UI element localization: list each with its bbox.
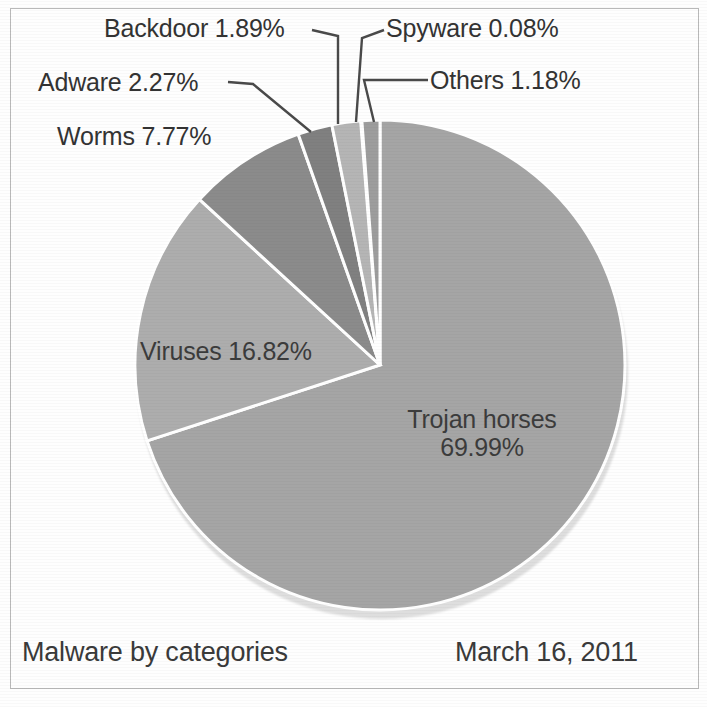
slice-label-trojan-percent: 69.99% bbox=[392, 433, 572, 461]
pie-chart bbox=[0, 0, 707, 707]
leader-line-backdoor bbox=[312, 30, 338, 124]
slice-label-spyware: Spyware 0.08% bbox=[386, 14, 559, 42]
chart-page: Backdoor 1.89% Spyware 0.08% Adware 2.27… bbox=[0, 0, 707, 707]
slice-label-backdoor: Backdoor 1.89% bbox=[104, 14, 285, 42]
chart-title: Malware by categories bbox=[22, 637, 288, 667]
leader-line-adware bbox=[228, 82, 311, 132]
slice-label-adware: Adware 2.27% bbox=[38, 68, 198, 96]
slice-label-worms: Worms 7.77% bbox=[57, 122, 211, 150]
slice-label-others: Others 1.18% bbox=[430, 66, 580, 94]
slice-label-trojan-horses: Trojan horses 69.99% bbox=[392, 405, 572, 461]
slice-label-viruses: Viruses 16.82% bbox=[140, 337, 312, 365]
leader-line-others bbox=[364, 80, 428, 122]
slice-label-trojan-name: Trojan horses bbox=[392, 405, 572, 433]
chart-date: March 16, 2011 bbox=[455, 637, 638, 667]
